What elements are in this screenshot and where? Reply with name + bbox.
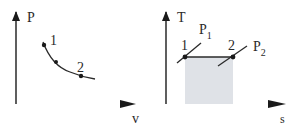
ts-isobar-p2-letter: P [253, 39, 261, 54]
ts-shaded-area [185, 57, 233, 104]
pv-y-axis-label: P [27, 10, 35, 25]
ts-point-2-label: 2 [228, 38, 235, 53]
ts-point-1 [183, 55, 188, 60]
ts-isobar-p1-letter: P [199, 22, 207, 37]
ts-isobar-p1-label: P1 [199, 22, 212, 41]
ts-x-axis-label: s [280, 112, 285, 126]
diagram-canvas: P v 1 2 T s 1 2 P1 P2 [0, 0, 299, 132]
pv-point-1-label: 1 [50, 33, 57, 48]
ts-diagram: T s 1 2 P1 P2 [166, 10, 286, 126]
ts-point-2 [231, 55, 236, 60]
ts-isobar-p1-subscript: 1 [207, 30, 212, 41]
ts-isobar-p2-subscript: 2 [261, 47, 266, 58]
pv-point-1 [42, 43, 46, 47]
pv-x-axis-label: v [132, 111, 139, 126]
ts-y-axis-label: T [177, 10, 186, 25]
pv-x-axis-arrow [120, 100, 136, 108]
ts-point-1-label: 1 [181, 38, 188, 53]
pv-point-2-label: 2 [77, 60, 84, 75]
pv-point-mid [54, 60, 58, 64]
ts-x-axis-arrow [268, 100, 286, 108]
pv-diagram: P v 1 2 [16, 10, 139, 126]
ts-isobar-p2-label: P2 [253, 39, 266, 58]
